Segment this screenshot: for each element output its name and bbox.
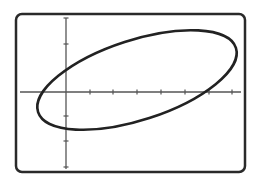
screen-frame [16, 14, 245, 172]
graph-screen [0, 0, 260, 184]
ellipse-curve [26, 10, 249, 150]
